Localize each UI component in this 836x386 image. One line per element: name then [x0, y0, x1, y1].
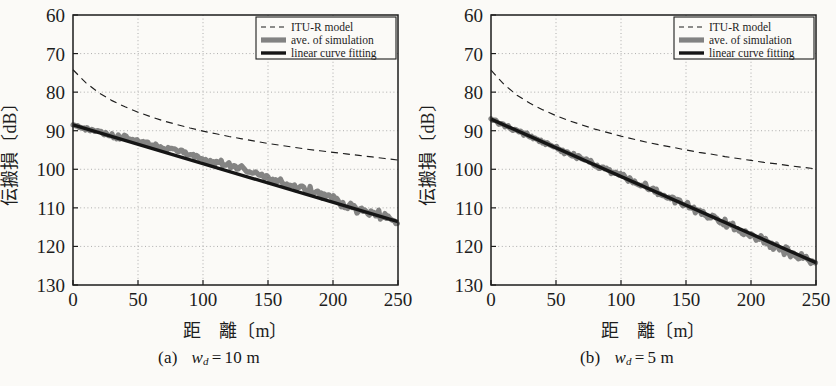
y-tick-label: 120	[37, 236, 66, 257]
y-tick-label: 80	[464, 82, 483, 103]
y-tick-label: 110	[37, 198, 65, 219]
y-tick-label: 60	[464, 5, 483, 26]
caption-b: (b)wd=5 m	[418, 348, 836, 368]
chart-a: 05010015020025060708090100110120130距 離〔m…	[0, 0, 418, 348]
y-tick-label: 120	[455, 236, 484, 257]
x-tick-label: 0	[68, 289, 78, 310]
legend: ITU-R modelave. of simulationlinear curv…	[674, 17, 814, 60]
legend-item-label: ave. of simulation	[291, 34, 374, 46]
legend-item-label: ITU-R model	[709, 21, 771, 33]
caption-b-equals: =	[635, 348, 645, 367]
y-tick-label: 60	[46, 5, 65, 26]
caption-a-variable: w	[192, 348, 204, 367]
x-tick-label: 250	[802, 289, 831, 310]
x-tick-label: 150	[672, 289, 701, 310]
x-axis-label: 距 離〔m〕	[183, 321, 287, 341]
x-tick-label: 250	[384, 289, 413, 310]
y-tick-label: 70	[46, 44, 65, 65]
y-axis-label: 伝搬損〔dB〕	[418, 94, 438, 205]
x-tick-label: 100	[607, 289, 636, 310]
legend-item-label: ave. of simulation	[709, 34, 792, 46]
y-tick-label: 130	[37, 275, 66, 296]
y-tick-label: 100	[455, 159, 484, 180]
caption-b-subscript: d	[626, 355, 632, 367]
x-tick-label: 50	[129, 289, 148, 310]
x-tick-label: 200	[319, 289, 348, 310]
y-tick-label: 130	[455, 275, 484, 296]
y-axis-label: 伝搬損〔dB〕	[0, 94, 20, 205]
panel-b: 05010015020025060708090100110120130距 離〔m…	[418, 0, 836, 386]
caption-a-label: (a)	[158, 348, 177, 367]
y-tick-label: 70	[464, 44, 483, 65]
y-tick-label: 80	[46, 82, 65, 103]
caption-b-variable: w	[614, 348, 626, 367]
x-axis-label: 距 離〔m〕	[601, 321, 705, 341]
panel-a: 05010015020025060708090100110120130距 離〔m…	[0, 0, 418, 386]
x-tick-label: 100	[189, 289, 218, 310]
x-tick-label: 150	[254, 289, 283, 310]
caption-b-value: 5 m	[647, 348, 674, 367]
caption-a-equals: =	[212, 348, 222, 367]
legend-item-label: ITU-R model	[291, 21, 353, 33]
caption-a-value: 10 m	[225, 348, 260, 367]
x-tick-label: 200	[737, 289, 766, 310]
figure-two-panel-pathloss: 05010015020025060708090100110120130距 離〔m…	[0, 0, 836, 386]
caption-a-subscript: d	[203, 355, 209, 367]
legend-item-label: linear curve fitting	[709, 47, 795, 60]
caption-a: (a)wd=10 m	[0, 348, 418, 368]
legend-item-label: linear curve fitting	[291, 47, 377, 60]
caption-b-label: (b)	[580, 348, 600, 367]
chart-b: 05010015020025060708090100110120130距 離〔m…	[418, 0, 836, 348]
y-tick-label: 90	[464, 121, 483, 142]
x-tick-label: 0	[486, 289, 496, 310]
legend: ITU-R modelave. of simulationlinear curv…	[256, 17, 396, 60]
y-tick-label: 110	[455, 198, 483, 219]
y-tick-label: 90	[46, 121, 65, 142]
x-tick-label: 50	[547, 289, 566, 310]
y-tick-label: 100	[37, 159, 66, 180]
